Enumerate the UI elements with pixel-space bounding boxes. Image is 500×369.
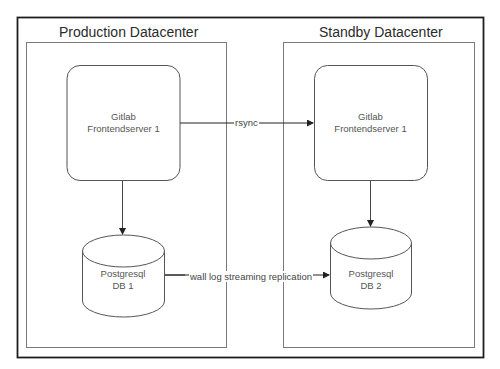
node-label-line1: Gitlab: [314, 111, 427, 123]
node-label-line2: Frontendserver 1: [67, 123, 180, 135]
node-label-line2: DB 1: [82, 280, 164, 292]
datacenter-replication-diagram: Production Datacenter Standby Datacenter…: [0, 0, 500, 369]
gitlab-frontend-standby-label: Gitlab Frontendserver 1: [314, 111, 427, 135]
node-label-line1: Gitlab: [67, 111, 180, 123]
production-datacenter-title: Production Datacenter: [59, 25, 198, 39]
diagram-canvas: [0, 0, 500, 369]
node-label-line2: DB 2: [330, 280, 412, 292]
node-label-line2: Frontendserver 1: [314, 123, 427, 135]
node-label-line1: Postgresql: [330, 268, 412, 280]
replication-edge-label: wall log streaming replication: [189, 271, 313, 282]
postgresql-db1-label: Postgresql DB 1: [82, 268, 164, 292]
standby-datacenter-title: Standby Datacenter: [319, 25, 443, 39]
rsync-edge-label: rsync: [234, 117, 259, 128]
postgresql-db2-label: Postgresql DB 2: [330, 268, 412, 292]
node-label-line1: Postgresql: [82, 268, 164, 280]
gitlab-frontend-production-label: Gitlab Frontendserver 1: [67, 111, 180, 135]
